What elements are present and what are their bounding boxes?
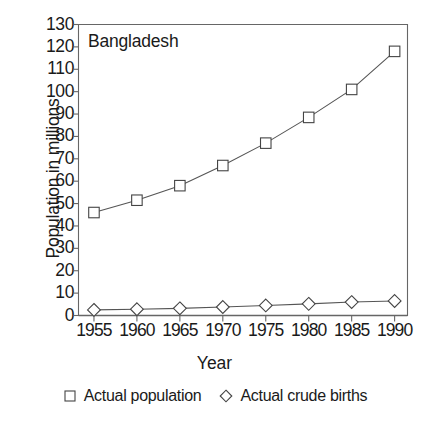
legend-label: Actual population <box>84 387 202 405</box>
x-axis-label: Year <box>0 353 429 374</box>
legend-label: Actual crude births <box>240 387 367 405</box>
diamond-marker-icon <box>221 390 233 402</box>
diamond-marker-icon <box>218 388 234 404</box>
legend-entry: Actual population <box>62 387 202 405</box>
chart-figure: Population in millions 01020304050607080… <box>0 0 429 423</box>
square-marker-icon <box>62 388 78 404</box>
x-axis-tick-label: 1990 <box>365 322 425 340</box>
square-marker-icon <box>65 391 75 401</box>
legend-entry: Actual crude births <box>218 387 367 405</box>
chart-legend: Actual populationActual crude births <box>0 387 429 405</box>
